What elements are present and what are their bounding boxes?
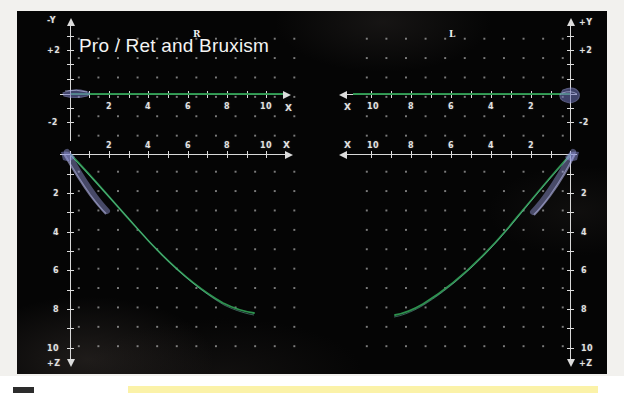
tick-x-lower-right	[551, 151, 552, 158]
xtick-lower-right-4: 4	[488, 142, 494, 150]
tick-x-lower-left	[148, 151, 149, 158]
xtick-upper-left-8: 8	[224, 103, 230, 111]
axis-y-upper-right	[570, 25, 571, 141]
tick-y-upper-right	[567, 36, 574, 37]
tick-y-upper-left	[67, 108, 74, 109]
xtick-upper-right-10: 10	[367, 103, 379, 111]
label-upper-left-y-top: -Y	[47, 17, 56, 25]
trace-upper-right	[17, 11, 607, 374]
tick-x-upper-left	[168, 91, 169, 98]
tick-y-upper-left	[67, 50, 74, 51]
xtick-lower-right-6: 6	[448, 142, 454, 150]
ztick-lower-right-8: 8	[581, 306, 587, 314]
xtick-lower-left-2: 2	[106, 142, 112, 150]
tick-x-upper-left	[227, 91, 228, 98]
ztick-lower-left-6: 6	[53, 267, 59, 275]
tick-x-upper-right	[451, 91, 452, 98]
tick-z-lower-right	[567, 309, 574, 310]
tick-x-upper-left	[207, 91, 208, 98]
tick-x-upper-right	[411, 91, 412, 98]
ztick-lower-left-2: 2	[53, 190, 59, 198]
xtick-upper-right-8: 8	[408, 103, 414, 111]
tick-x-upper-left	[109, 91, 110, 98]
xtick-lower-left-6: 6	[185, 142, 191, 150]
label-upper-left-minus2: -2	[48, 119, 58, 127]
tick-x-upper-left	[266, 91, 267, 98]
axis-x-arrow-lower-left	[285, 151, 293, 159]
tick-y-upper-right	[567, 108, 574, 109]
tick-y-upper-right	[567, 79, 574, 80]
label-lower-right-x: X	[344, 141, 351, 150]
tick-x-lower-left	[89, 151, 90, 158]
axis-x-lower-left	[60, 154, 286, 155]
tick-x-upper-left	[188, 91, 189, 98]
tick-x-lower-right	[471, 151, 472, 158]
dotgrid-lower-right	[357, 162, 571, 354]
tick-x-lower-right	[431, 151, 432, 158]
axis-x-arrow-upper-right	[339, 91, 347, 99]
tick-y-upper-right	[567, 64, 574, 65]
tick-x-upper-right	[371, 91, 372, 98]
label-upper-left-plus2: +2	[47, 47, 60, 55]
tick-z-lower-left	[67, 193, 74, 194]
panel-letter-left: L	[449, 29, 456, 39]
highlighted-text-band	[128, 386, 598, 393]
tick-z-lower-left	[67, 328, 74, 329]
axis-z-arrow-lower-left	[67, 359, 75, 367]
plot-plate: -Y +2 -2 X 2 4 6 8 10 R	[17, 11, 607, 374]
axis-x-lower-right	[347, 154, 577, 155]
tick-z-lower-right	[567, 193, 574, 194]
tick-z-lower-left	[67, 309, 74, 310]
xtick-upper-right-6: 6	[448, 103, 454, 111]
ztick-lower-left-4: 4	[53, 229, 59, 237]
tick-x-upper-left	[89, 91, 90, 98]
tick-x-lower-left	[168, 151, 169, 158]
tick-x-lower-left	[207, 151, 208, 158]
label-upper-right-y-top: +Y	[579, 19, 593, 27]
xtick-lower-right-2: 2	[528, 142, 534, 150]
xtick-lower-right-10: 10	[367, 142, 379, 150]
xtick-lower-left-10: 10	[260, 142, 272, 150]
tick-z-lower-right	[567, 212, 574, 213]
tick-z-lower-left	[67, 174, 74, 175]
tick-x-lower-right	[451, 151, 452, 158]
tick-z-lower-right	[567, 328, 574, 329]
ztick-lower-left-8: 8	[53, 306, 59, 314]
tick-x-lower-left	[188, 151, 189, 158]
tick-x-upper-right	[491, 91, 492, 98]
tick-z-lower-left	[67, 270, 74, 271]
tick-y-upper-left	[67, 64, 74, 65]
label-lower-left-x: X	[283, 141, 290, 150]
tick-x-lower-left	[266, 151, 267, 158]
xtick-upper-right-2: 2	[528, 103, 534, 111]
ztick-lower-right-6: 6	[581, 267, 587, 275]
tick-x-upper-right	[391, 91, 392, 98]
label-upper-left-x: X	[285, 104, 292, 113]
label-lower-right-z-bottom: +Z	[579, 360, 593, 368]
axis-y-arrow-upper-right	[567, 18, 575, 26]
xtick-upper-left-6: 6	[185, 103, 191, 111]
tick-x-upper-right	[511, 91, 512, 98]
axis-z-lower-right	[570, 151, 571, 361]
photo-grain-overlay	[17, 11, 607, 374]
tick-x-lower-left	[109, 151, 110, 158]
axis-x-upper-right	[347, 94, 577, 95]
tick-x-upper-right	[471, 91, 472, 98]
tick-x-lower-left	[129, 151, 130, 158]
label-upper-right-minus2: -2	[579, 119, 589, 127]
tick-x-upper-right	[531, 91, 532, 98]
tick-z-lower-right	[567, 251, 574, 252]
ztick-lower-right-2: 2	[581, 190, 587, 198]
tick-x-lower-right	[391, 151, 392, 158]
trace-lower-left	[17, 11, 607, 374]
trace-lower-right	[17, 11, 607, 374]
tick-z-lower-left	[67, 348, 74, 349]
tick-z-lower-right	[567, 174, 574, 175]
tick-z-lower-right	[567, 270, 574, 271]
xtick-upper-left-4: 4	[145, 103, 151, 111]
page-glyph-mark	[13, 387, 34, 393]
tick-x-upper-left	[129, 91, 130, 98]
axis-x-arrow-lower-right	[339, 151, 347, 159]
tick-y-upper-left	[67, 122, 74, 123]
dotgrid-upper-right	[357, 29, 571, 137]
